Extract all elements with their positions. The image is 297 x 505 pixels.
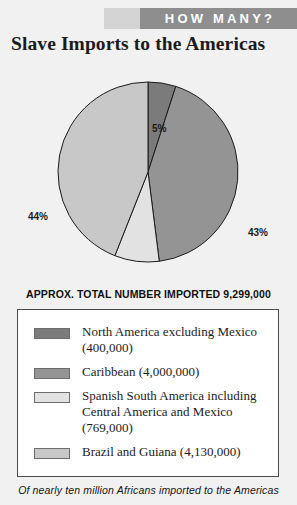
legend-swatch (34, 448, 70, 459)
legend-box: North America excluding Mexico (400,000)… (17, 309, 279, 477)
legend-item-label: Brazil and Guiana (4,130,000) (82, 444, 240, 460)
legend-swatch (34, 368, 70, 379)
legend-item-label: Spanish South America including Central … (82, 388, 278, 436)
legend-swatch (34, 328, 70, 339)
legend-item: Spanish South America including Central … (18, 388, 278, 436)
pie-label-north-america: 5% (152, 123, 166, 134)
legend-swatch (34, 392, 70, 403)
header-banner: HOW MANY? (0, 8, 297, 29)
legend-item: Brazil and Guiana (4,130,000) (18, 444, 278, 460)
total-imported-label: APPROX. TOTAL NUMBER IMPORTED 9,299,000 (0, 288, 297, 300)
legend-item: North America excluding Mexico (400,000) (18, 324, 278, 356)
banner-accent-block (104, 8, 140, 29)
pie-label-brazil-guiana: 44% (28, 211, 48, 222)
legend-item: Caribbean (4,000,000) (18, 364, 278, 380)
legend-list: North America excluding Mexico (400,000)… (18, 310, 278, 468)
legend-item-label: North America excluding Mexico (400,000) (82, 324, 278, 356)
infographic-page: HOW MANY? Slave Imports to the Americas … (0, 0, 297, 505)
legend-item-label: Caribbean (4,000,000) (82, 364, 199, 380)
pie-label-caribbean: 43% (248, 227, 268, 238)
page-title: Slave Imports to the Americas (11, 33, 291, 55)
pie-chart: 5% 43% 8% 44% (0, 60, 297, 278)
footer-caption: Of nearly ten million Africans imported … (0, 484, 297, 496)
pie-slice-group (58, 82, 238, 262)
banner-title: HOW MANY? (140, 8, 297, 29)
pie-chart-svg (0, 60, 297, 278)
